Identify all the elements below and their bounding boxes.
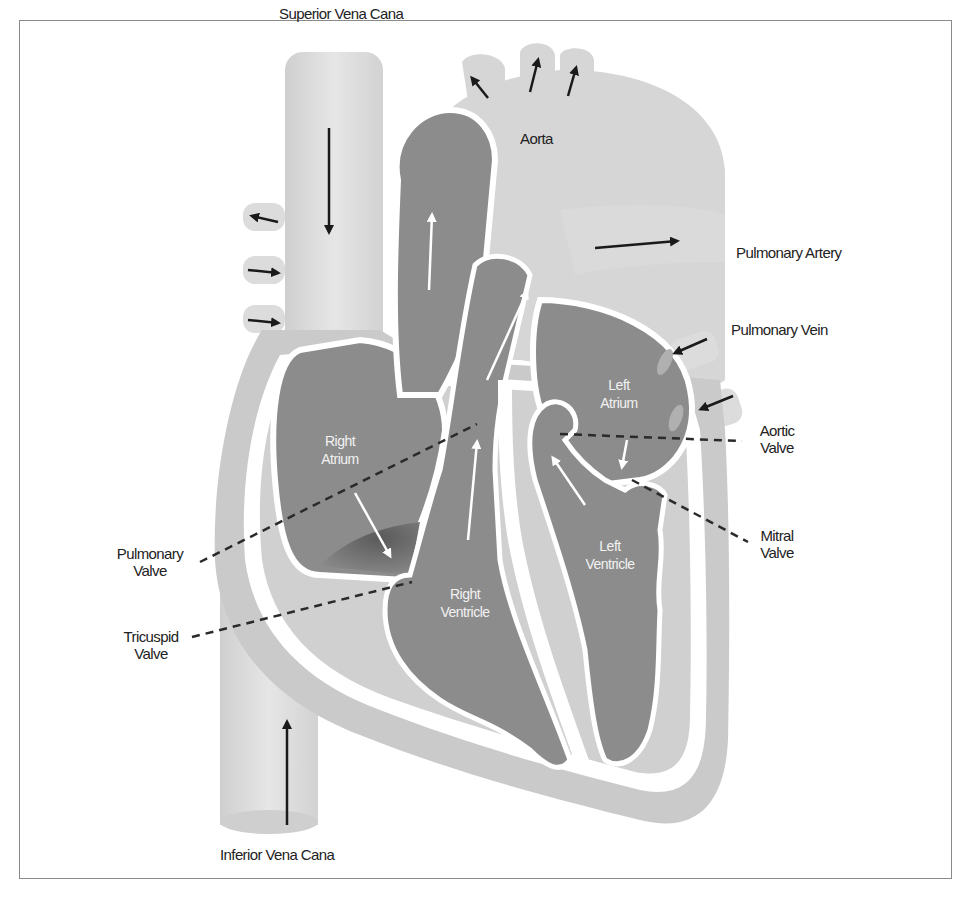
label-right-ventricle-line1: Right (420, 585, 510, 603)
label-pulmonary-vein: Pulmonary Vein (731, 321, 828, 338)
label-aortic-valve-line1: Aortic (752, 422, 802, 439)
label-right-ventricle-line2: Ventricle (420, 603, 510, 621)
label-mitral-valve-line2: Valve (752, 544, 802, 561)
label-pulmonary-valve-line1: Pulmonary (110, 545, 190, 562)
heart-diagram (0, 0, 967, 898)
label-tricuspid-valve-line2: Valve (116, 645, 186, 662)
label-left-atrium: Left Atrium (584, 376, 654, 412)
label-pulmonary-valve: Pulmonary Valve (110, 545, 190, 579)
label-left-ventricle: Left Ventricle (565, 537, 655, 573)
label-superior-vena-cava: Superior Vena Cana (279, 5, 403, 22)
label-tricuspid-valve-line1: Tricuspid (116, 628, 186, 645)
label-tricuspid-valve: Tricuspid Valve (116, 628, 186, 662)
label-right-atrium-line2: Atrium (300, 450, 380, 468)
label-left-atrium-line2: Atrium (584, 394, 654, 412)
superior-vena-cava-vessel (243, 52, 383, 362)
label-left-ventricle-line2: Ventricle (565, 555, 655, 573)
label-pulmonary-artery: Pulmonary Artery (736, 244, 841, 261)
label-mitral-valve: Mitral Valve (752, 527, 802, 561)
label-aortic-valve-line2: Valve (752, 439, 802, 456)
label-aorta: Aorta (520, 130, 553, 147)
label-aortic-valve: Aortic Valve (752, 422, 802, 456)
label-inferior-vena-cava: Inferior Vena Cana (220, 846, 334, 863)
label-right-atrium: Right Atrium (300, 432, 380, 468)
label-left-ventricle-line1: Left (565, 537, 655, 555)
label-pulmonary-valve-line2: Valve (110, 562, 190, 579)
label-right-ventricle: Right Ventricle (420, 585, 510, 621)
label-right-atrium-line1: Right (300, 432, 380, 450)
label-left-atrium-line1: Left (584, 376, 654, 394)
label-mitral-valve-line1: Mitral (752, 527, 802, 544)
